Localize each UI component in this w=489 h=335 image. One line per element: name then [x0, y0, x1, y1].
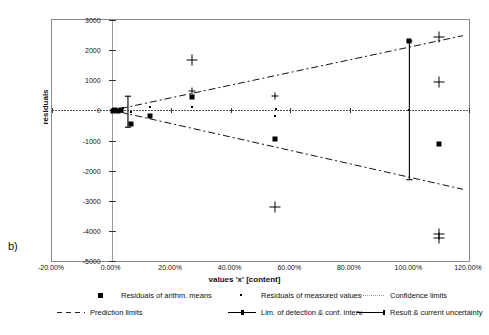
legend-item[interactable]: Residuals of measured values [228, 291, 361, 300]
data-point-cross [434, 76, 445, 87]
y-axis-tick-label: -5000 [83, 258, 101, 265]
x-axis-tick [350, 108, 351, 113]
y-axis-tick-label: 2000 [85, 47, 101, 54]
y-axis-tick-label: -2000 [83, 167, 101, 174]
y-axis-tick-label: 0 [97, 107, 101, 114]
prediction-limit-upper [121, 36, 464, 109]
y-axis-tick-label: -1000 [83, 137, 101, 144]
legend-item-label: Lim. of detection & conf. interv. [261, 308, 363, 317]
data-point-mean [128, 121, 133, 126]
y-axis-tick-label: -4000 [83, 227, 101, 234]
data-point-mean [273, 137, 278, 142]
x-axis-tick-label: -20.00% [38, 264, 64, 271]
data-point-cross [186, 54, 197, 65]
legend-item-label: Confidence limits [390, 291, 447, 300]
data-point-cross [434, 32, 445, 43]
data-point-measured [149, 106, 151, 108]
y-axis-tick [109, 50, 116, 51]
data-point-measured [274, 115, 276, 117]
legend-item-label: Residuals of arithm. means [121, 291, 212, 300]
legend-item[interactable]: Result & current uncertainty [357, 308, 483, 317]
data-point-cross [434, 233, 445, 244]
x-axis-tick [231, 108, 232, 113]
y-axis-tick [109, 261, 116, 262]
data-point-measured [130, 111, 132, 113]
legend-item-label: Prediction limits [90, 308, 143, 317]
y-axis-tick [109, 201, 116, 202]
legend-item-label: Residuals of measured values [261, 291, 361, 300]
chart-figure: b) residuals signal values 'y' 300020001… [0, 0, 489, 335]
data-point-mean [437, 142, 442, 147]
y-axis-tick-label: 3000 [85, 17, 101, 24]
data-point-mean [189, 95, 194, 100]
data-point-cross [272, 92, 279, 99]
x-axis-tick [171, 108, 172, 113]
data-point-measured [275, 108, 277, 110]
y-axis-tick [109, 20, 116, 21]
data-point-mean [407, 39, 412, 44]
x-axis-tick [52, 108, 53, 113]
data-point-cross [270, 201, 281, 212]
legend-key-dotted-icon [357, 291, 385, 300]
x-axis-tick-label: 40.00% [218, 264, 242, 271]
x-axis-tick [290, 108, 291, 113]
legend-item[interactable]: Lim. of detection & conf. interv. [228, 308, 363, 317]
plot-area: 3000200010000-1000-2000-3000-4000-5000 [51, 19, 470, 262]
y-axis-tick [109, 80, 116, 81]
legend-key-dot-icon [228, 291, 256, 300]
y-axis-tick [109, 141, 116, 142]
legend-item-label: Result & current uncertainty [390, 308, 483, 317]
data-point-mean [148, 114, 153, 119]
y-axis-tick-label: 1000 [85, 77, 101, 84]
legend-key-dashed-icon [57, 308, 85, 317]
legend-key-solid-marker-icon [228, 308, 256, 317]
x-axis-tick-label: 100.00% [395, 264, 423, 271]
prediction-limit-lower [121, 112, 464, 189]
y-axis-tick-label: -3000 [83, 197, 101, 204]
y-axis-tick [109, 171, 116, 172]
x-axis-tick-label: 60.00% [277, 264, 301, 271]
x-axis-tick [469, 108, 470, 113]
x-axis-tick-label: 80.00% [337, 264, 361, 271]
y-axis-tick [109, 231, 116, 232]
legend-key-square-icon [88, 291, 116, 300]
x-axis-tick-label: 0.00% [101, 264, 121, 271]
data-point-measured [191, 106, 193, 108]
y-axis-title-line1: residuals [40, 61, 51, 153]
data-point-cross [188, 88, 195, 95]
legend-item[interactable]: Confidence limits [357, 291, 447, 300]
legend-item[interactable]: Residuals of arithm. means [88, 291, 212, 300]
data-point-measured [408, 109, 410, 111]
legend-item[interactable]: Prediction limits [57, 308, 143, 317]
x-axis-tick-label: 20.00% [158, 264, 182, 271]
panel-label: b) [8, 240, 18, 252]
x-axis-tick-label: 120.00% [454, 264, 482, 271]
legend-key-solid-icon [357, 308, 385, 317]
data-point-mean [118, 107, 123, 112]
x-axis-title: values 'x' [content] [0, 275, 489, 284]
